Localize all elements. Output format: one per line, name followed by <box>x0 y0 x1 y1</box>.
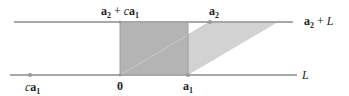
label-a2-plus-L: a2 + L <box>304 14 334 30</box>
point-a2 <box>208 20 212 24</box>
lattice-diagram: a2 + ca1 a2 a2 + L L ca1 0 a1 <box>0 0 349 96</box>
parallelogram-light <box>188 22 278 75</box>
point-a1 <box>186 73 190 77</box>
point-a2-plus-ca1 <box>119 21 122 24</box>
point-ca1 <box>28 73 32 77</box>
label-a1: a1 <box>183 79 193 95</box>
label-ca1: ca1 <box>25 80 40 96</box>
label-a2-plus-ca1: a2 + ca1 <box>101 4 139 20</box>
rectangle-dark <box>120 22 188 75</box>
point-zero <box>119 74 122 77</box>
label-L: L <box>301 68 309 82</box>
label-zero: 0 <box>117 79 123 93</box>
label-a2: a2 <box>209 4 219 20</box>
